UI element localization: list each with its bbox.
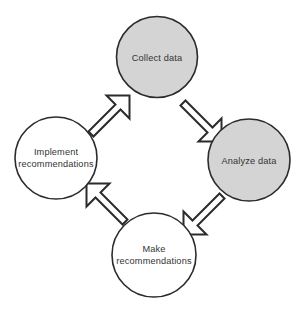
node-label-line-1: Make [142,244,165,254]
node-label-line-1: Implement [34,147,79,157]
node-collect-data[interactable]: Collect data [117,17,198,98]
arrow-head-shape [87,184,128,225]
arrow-head-shape [184,194,225,235]
node-implement-recommendations[interactable]: Implement recommendations [15,117,97,199]
arrow-make-to-implement [87,184,128,225]
arrow-head-shape [89,96,130,137]
node-analyze-data[interactable]: Analyze data [208,119,290,201]
arrow-implement-to-collect [89,96,130,137]
node-label-line-2: recommendations [18,159,94,169]
cycle-diagram: Collect data Analyze data Make recommend… [0,0,305,314]
node-label-line-1: Collect data [132,53,183,63]
node-label-line-2: recommendations [116,256,192,266]
arrow-analyze-to-make [184,194,225,235]
node-make-recommendations[interactable]: Make recommendations [112,213,196,297]
cycle-diagram-canvas: Collect data Analyze data Make recommend… [0,0,305,314]
node-label-line-1: Analyze data [222,156,278,166]
